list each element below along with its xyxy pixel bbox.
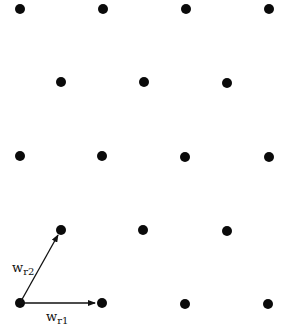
lattice-diagram: wr1wr2 (0, 0, 292, 332)
lattice-point (264, 152, 274, 162)
lattice-point (138, 225, 148, 235)
lattice-point (180, 152, 190, 162)
lattice-point (222, 226, 232, 236)
lattice-point (97, 298, 107, 308)
lattice-points (15, 4, 274, 309)
basis-vectors: wr1wr2 (12, 235, 95, 326)
lattice-point (98, 4, 108, 14)
lattice-point (181, 4, 191, 14)
lattice-point (263, 299, 273, 309)
lattice-point (15, 151, 25, 161)
lattice-point (15, 4, 25, 14)
lattice-point (56, 77, 66, 87)
lattice-point (97, 151, 107, 161)
lattice-point (180, 299, 190, 309)
vector-label-w-r1: wr1 (46, 309, 68, 326)
lattice-point (56, 225, 66, 235)
lattice-point (139, 77, 149, 87)
lattice-point (222, 78, 232, 88)
lattice-point (264, 4, 274, 14)
vector-label-w-r2: wr2 (12, 260, 34, 277)
